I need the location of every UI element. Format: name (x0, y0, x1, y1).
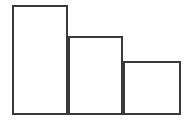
bar-3 (124, 62, 180, 114)
bar-1 (13, 6, 67, 114)
bar-chart-canvas (0, 0, 195, 122)
bar-2 (69, 37, 122, 114)
bar-chart-figure (0, 0, 195, 122)
